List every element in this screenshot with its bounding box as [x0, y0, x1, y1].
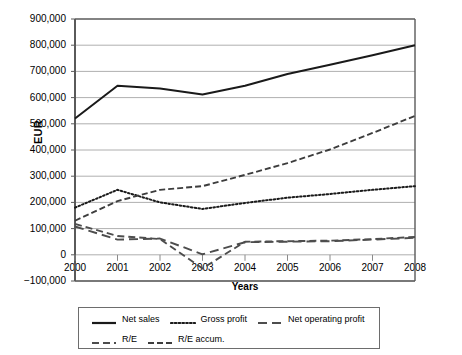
chart-legend: Net salesGross profitNet operating profi… [78, 307, 380, 349]
series-line-2 [75, 227, 415, 255]
legend-row-bottom: R/ER/E accum. [79, 329, 391, 349]
legend-label: R/E accum. [178, 334, 225, 344]
series-line-4 [75, 116, 415, 221]
legend-item[interactable]: R/E accum. [147, 334, 225, 344]
legend-label: Net operating profit [288, 314, 365, 324]
legend-label: Net sales [122, 314, 160, 324]
legend-row-top: Net salesGross profitNet operating profi… [79, 309, 391, 329]
legend-item[interactable]: Net sales [91, 314, 160, 324]
legend-key-dashed-dense-icon [147, 334, 173, 344]
legend-key-dashed-medium-icon [91, 334, 117, 344]
series-line-3 [75, 224, 415, 269]
legend-item[interactable]: R/E [91, 334, 137, 344]
legend-label: Gross profit [201, 314, 248, 324]
plot-area [0, 0, 462, 355]
legend-key-dashed-long-icon [257, 314, 283, 324]
series-line-1 [75, 186, 415, 209]
legend-item[interactable]: Gross profit [170, 314, 248, 324]
line-chart-figure: EUR Years 900,000800,000700,000600,00050… [0, 0, 462, 355]
legend-label: R/E [122, 334, 137, 344]
legend-key-solid-icon [91, 314, 117, 324]
legend-key-dotted-icon [170, 314, 196, 324]
series-line-0 [75, 45, 415, 118]
legend-item[interactable]: Net operating profit [257, 314, 365, 324]
